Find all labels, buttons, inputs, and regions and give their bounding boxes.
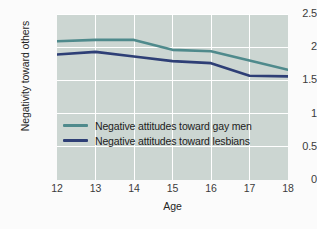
series-line-gay-men [57,40,288,70]
x-tick-label: 13 [83,183,109,194]
x-tick-label: 17 [237,183,263,194]
legend-label-gay-men: Negative attitudes toward gay men [95,120,252,132]
y-axis-title: Negativity toward others [19,0,31,156]
series-line-lesbians [57,52,288,77]
y-tick-label: 2.5 [265,8,317,19]
chart-legend: Negative attitudes toward gay men Negati… [63,118,278,148]
legend-swatch-gay-men [63,124,88,127]
legend-swatch-lesbians [63,139,88,142]
x-tick-label: 14 [121,183,147,194]
x-tick-label: 16 [198,183,224,194]
x-tick-label: 12 [44,183,70,194]
x-axis-title: Age [57,200,288,212]
x-tick-label: 15 [160,183,186,194]
x-tick-label: 18 [275,183,301,194]
series-lines [57,14,288,180]
y-tick-label: 1 [265,108,317,119]
y-tick-label: 2 [265,41,317,52]
line-chart-figure: 00.511.522.5 12131415161718 Negativity t… [0,0,317,229]
plot-area [57,14,288,180]
legend-item: Negative attitudes toward lesbians [63,133,278,148]
legend-label-lesbians: Negative attitudes toward lesbians [95,135,250,147]
legend-item: Negative attitudes toward gay men [63,118,278,133]
y-tick-label: 1.5 [265,74,317,85]
